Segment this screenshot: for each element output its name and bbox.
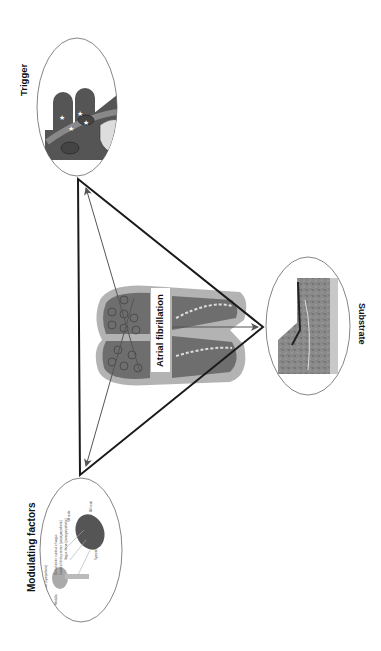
pulmonary-vein-trigger-image: ★ ★ ★ ★ [45,88,125,160]
substrate-node [266,257,350,395]
atria-illustration [96,286,247,386]
substrate-label: Substrate [357,303,367,345]
annotation-dorsal-motor: Dorsal motor nucleus of vagus [54,534,58,575]
svg-text:★: ★ [77,110,83,117]
trigger-node: ★ ★ ★ ★ [37,38,125,176]
diagram-canvas: ★ ★ ★ ★ [0,0,381,651]
annotation-av-node: AV node [89,500,93,512]
annotation-sympathetic-nerve: Sympathetic cardiac nerve [94,524,98,560]
annotation-sa-node: SA node [67,510,71,522]
annotation-cardioinhibitory: Cardioinhibitory center (parasympathetic… [59,520,63,575]
svg-text:★: ★ [68,125,74,132]
svg-text:★: ★ [83,119,89,126]
annotation-medulla: Medulla [54,594,58,605]
triangle-of-af-diagram: ★ ★ ★ ★ [0,0,381,651]
annotation-vagus-nerve: Vagus nerve (parasympathetic) [64,519,68,560]
modulating-factors-label: Modulating factors [26,503,37,592]
atrial-fibrillation-label: Atrial fibrillation [153,291,166,370]
trigger-label: Trigger [18,64,29,96]
modulating-factors-node: Dorsal motor nucleus of vagus Cardioinhi… [40,478,122,622]
svg-text:★: ★ [59,114,65,121]
